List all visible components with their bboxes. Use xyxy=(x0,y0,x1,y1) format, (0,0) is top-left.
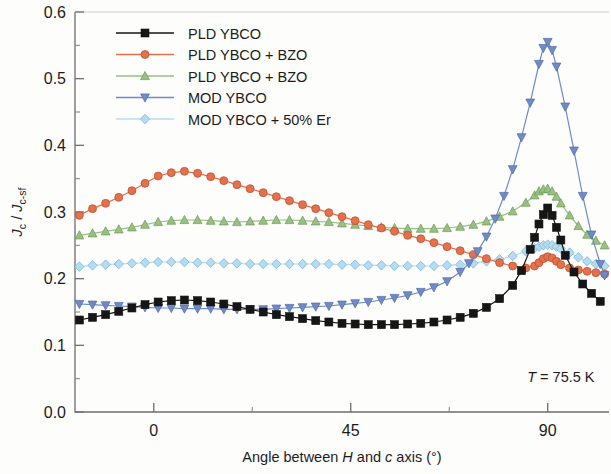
data-point-marker xyxy=(299,201,307,209)
y-tick-label: 0.3 xyxy=(44,204,66,221)
data-point-marker xyxy=(324,259,333,269)
data-point-marker xyxy=(207,173,215,181)
legend-label: PLD YBCO + BZO xyxy=(188,47,307,63)
data-point-marker xyxy=(578,192,587,200)
data-point-marker xyxy=(442,261,451,271)
data-point-marker xyxy=(535,220,543,228)
data-point-marker xyxy=(193,258,202,268)
data-point-marker xyxy=(583,267,591,275)
data-point-marker xyxy=(526,245,534,253)
data-point-marker xyxy=(75,262,84,272)
x-axis-title: Angle between H and c axis (°) xyxy=(242,449,441,465)
data-point-marker xyxy=(337,260,346,270)
data-point-marker xyxy=(89,205,97,213)
data-point-marker xyxy=(167,257,176,267)
legend-label: PLD YBCO + BZO xyxy=(188,69,307,85)
data-point-marker xyxy=(285,313,293,321)
data-point-marker xyxy=(531,233,539,241)
legend-label: MOD YBCO xyxy=(188,90,267,106)
legend-item[interactable]: PLD YBCO + BZO xyxy=(116,69,307,85)
data-point-marker xyxy=(377,224,385,232)
data-point-marker xyxy=(351,217,359,225)
data-point-marker xyxy=(404,231,412,239)
data-point-marker xyxy=(272,259,281,269)
data-point-marker xyxy=(592,269,600,277)
data-point-marker xyxy=(115,193,123,201)
data-point-marker xyxy=(154,172,162,180)
y-tick-label: 0.0 xyxy=(44,404,66,421)
data-point-marker xyxy=(482,255,490,263)
series-layer xyxy=(75,38,609,328)
axis-spines xyxy=(75,12,609,412)
data-point-marker xyxy=(377,261,386,271)
data-point-marker xyxy=(272,193,280,201)
data-point-marker xyxy=(509,281,517,289)
data-point-marker xyxy=(403,261,412,271)
data-point-marker xyxy=(114,259,123,269)
data-point-marker xyxy=(509,262,517,270)
legend-item[interactable]: PLD YBCO + BZO xyxy=(116,47,307,63)
data-point-marker xyxy=(561,251,569,259)
data-point-marker xyxy=(141,29,149,37)
data-point-marker xyxy=(416,261,425,271)
data-point-marker xyxy=(430,239,438,247)
data-point-marker xyxy=(246,305,254,313)
legend-item[interactable]: MOD YBCO + 50% Er xyxy=(116,112,331,128)
data-point-marker xyxy=(127,259,136,269)
y-tick-label: 0.6 xyxy=(44,4,66,21)
data-point-marker xyxy=(583,257,592,267)
legend-item[interactable]: MOD YBCO xyxy=(116,90,267,106)
y-tick-label: 0.2 xyxy=(44,270,66,287)
data-point-marker xyxy=(561,103,570,111)
data-point-marker xyxy=(233,303,241,311)
x-tick-label: 90 xyxy=(539,422,557,439)
legend-item[interactable]: PLD YBCO xyxy=(116,26,261,42)
data-point-marker xyxy=(508,207,517,215)
data-point-marker xyxy=(535,60,544,68)
data-point-marker xyxy=(443,278,452,286)
data-point-marker xyxy=(259,308,267,316)
data-point-marker xyxy=(570,147,579,155)
data-point-marker xyxy=(140,114,149,124)
data-point-marker xyxy=(101,260,110,270)
data-point-marker xyxy=(552,63,561,71)
data-point-marker xyxy=(180,167,188,175)
data-point-marker xyxy=(517,134,526,142)
data-point-marker xyxy=(526,99,535,107)
x-tick-label: 0 xyxy=(149,422,158,439)
data-point-marker xyxy=(417,235,425,243)
annotation-layer: T = 75.5 K xyxy=(527,369,595,385)
data-point-marker xyxy=(75,211,83,219)
data-point-marker xyxy=(246,185,254,193)
data-point-marker xyxy=(194,169,202,177)
legend-label: MOD YBCO + 50% Er xyxy=(188,112,331,128)
data-point-marker xyxy=(364,321,372,329)
data-point-marker xyxy=(245,259,254,269)
data-point-marker xyxy=(456,313,464,321)
data-point-marker xyxy=(167,297,175,305)
data-point-marker xyxy=(128,304,136,312)
data-point-marker xyxy=(557,261,565,269)
figure-container: 0.00.10.20.30.40.50.604590 PLD YBCOPLD Y… xyxy=(0,0,611,474)
data-point-marker xyxy=(89,313,97,321)
data-point-marker xyxy=(102,199,110,207)
data-point-marker xyxy=(88,261,97,271)
data-point-marker xyxy=(285,197,293,205)
data-point-marker xyxy=(443,243,451,251)
data-point-marker xyxy=(220,300,228,308)
data-point-marker xyxy=(539,44,548,52)
data-point-marker xyxy=(140,258,149,268)
y-axis-title: Jc / Jc-sf xyxy=(9,188,28,238)
data-point-marker xyxy=(364,261,373,271)
data-point-marker xyxy=(443,316,451,324)
legend-layer: PLD YBCOPLD YBCO + BZOPLD YBCO + BZOMOD … xyxy=(116,26,331,128)
y-tick-label: 0.1 xyxy=(44,337,66,354)
data-point-marker xyxy=(194,297,202,305)
data-point-marker xyxy=(600,241,609,249)
data-point-marker xyxy=(579,280,587,288)
data-point-marker xyxy=(404,320,412,328)
labels-layer: Angle between H and c axis (°)Jc / Jc-sf xyxy=(9,188,442,465)
data-point-marker xyxy=(544,204,552,212)
data-point-marker xyxy=(557,236,565,244)
data-point-marker xyxy=(482,303,490,311)
